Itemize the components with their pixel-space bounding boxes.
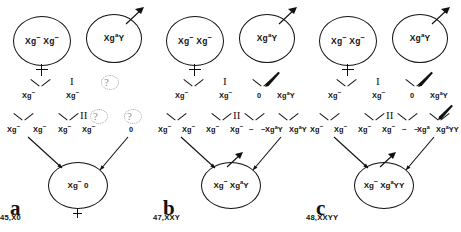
nondisjunction-arrow	[436, 103, 454, 121]
female-symbol-icon	[36, 64, 48, 76]
chromatid-chevron-II-3	[245, 113, 263, 122]
meiosis-two-product-label: Xg−	[382, 126, 395, 133]
meiosis-two-product-label: Xg−	[158, 126, 171, 133]
meiosis-two-marker: II	[80, 110, 87, 121]
male-symbol-arrow	[277, 6, 299, 26]
maternal-fusion-arrow	[22, 131, 68, 174]
maternal-genotype-label: Xg− Xg−	[331, 37, 365, 46]
bivalent-chevron-maternal-I	[31, 79, 49, 88]
paternal-fusion-arrow	[247, 131, 287, 176]
meiosis-two-marker: II	[386, 110, 393, 121]
panel-c: Xg− Xg−XgaYIXg−Xg−0XgaYIIXg−Xg−Xg−Xg−Xga…	[306, 0, 459, 232]
maternal-gamete-circle: Xg− Xg−	[13, 16, 71, 66]
question-mark-glyph: ?	[104, 76, 109, 88]
meiosis-two-product-label: Xg−	[310, 126, 323, 133]
meiosis-one-marker: I	[223, 76, 227, 87]
zygote-male-arrow	[225, 150, 245, 170]
meiosis-one-product-label: Xg−	[328, 92, 341, 99]
zygote-male-arrow	[378, 150, 398, 170]
nondisjunction-arrow	[416, 70, 434, 88]
meiosis-one-marker: I	[70, 76, 74, 87]
zygote-female-symbol-icon	[77, 209, 78, 218]
bivalent-chevron-maternal-I	[184, 79, 202, 88]
meiosis-one-product-label: Xg−	[22, 92, 35, 99]
meiosis-one-product-label: Xg−	[219, 92, 232, 99]
paternal-fusion-arrow	[400, 131, 440, 176]
meiosis-one-product-label: Xg−	[66, 92, 79, 99]
nondisjunction-arrow	[263, 70, 281, 88]
question-mark-glyph: ?	[93, 110, 98, 122]
chromatid-chevron-II-2	[59, 113, 77, 122]
maternal-gamete-circle: Xg− Xg−	[166, 16, 224, 66]
chromatid-chevron-II-2	[212, 113, 230, 122]
meiosis-one-product-label: XgaY	[430, 92, 448, 99]
meiosis-two-product-label: XgaY	[289, 126, 307, 133]
figure-canvas: Xg− Xg−XgaYI?Xg−Xg−II??Xg−Xg−Xg−Xg−0Xg− …	[0, 0, 461, 232]
meiosis-two-product-label: Xg−	[7, 126, 20, 133]
meiosis-one-product-label: Xg−	[175, 92, 188, 99]
female-symbol-icon	[189, 64, 201, 76]
paternal-fusion-arrow	[94, 131, 134, 176]
paternal-genotype-label: XgaY	[104, 34, 125, 43]
male-symbol-arrow	[124, 6, 146, 26]
meiosis-one-product-label: Xg−	[372, 92, 385, 99]
maternal-fusion-arrow	[175, 131, 221, 174]
karyotype-label-a: 45,X0	[0, 214, 21, 222]
meiosis-one-marker: I	[376, 76, 380, 87]
karyotype-label-c: 48,XXYY	[306, 214, 338, 222]
zygote-genotype-label: Xg− XgaYY	[364, 182, 405, 190]
chromatid-chevron-II-1	[167, 113, 185, 122]
paternal-genotype-label: XgaY	[410, 34, 431, 43]
maternal-gamete-circle: Xg− Xg−	[319, 16, 377, 66]
meiosis-one-product-label: XgaY	[277, 92, 295, 99]
chromatid-chevron-II-3	[398, 113, 416, 122]
zygote-genotype-label: Xg− 0	[68, 182, 89, 190]
maternal-genotype-label: Xg− Xg−	[25, 37, 59, 46]
unknown-chromosome-icon: ?	[104, 77, 109, 88]
unknown-chromosome-icon: ?	[93, 111, 98, 122]
chromatid-chevron-II-2	[365, 113, 383, 122]
maternal-fusion-arrow	[328, 131, 374, 174]
meiosis-two-marker: II	[233, 110, 240, 121]
meiosis-two-product-label: Xg−	[230, 126, 243, 133]
meiosis-one-product-label: 0	[410, 92, 414, 99]
unknown-chromosome-icon: ?	[127, 111, 132, 122]
paternal-genotype-label: XgaY	[257, 34, 278, 43]
meiosis-one-product-label: 0	[257, 92, 261, 99]
chromatid-chevron-II-1	[14, 113, 32, 122]
female-symbol-icon	[342, 64, 354, 76]
panel-b: Xg− Xg−XgaYIXg−Xg−0XgaYIIXg−Xg−Xg−Xg−Xga…	[153, 0, 306, 232]
maternal-genotype-label: Xg− Xg−	[178, 37, 212, 46]
karyotype-label-b: 47,XXY	[153, 214, 180, 222]
chromatid-chevron-II-1	[320, 113, 338, 122]
male-symbol-arrow	[430, 6, 452, 26]
chromatid-chevron-II-4	[279, 113, 297, 122]
zygote-genotype-label: Xg− XgaY	[213, 182, 248, 190]
question-mark-glyph: ?	[127, 110, 132, 122]
panel-a: Xg− Xg−XgaYI?Xg−Xg−II??Xg−Xg−Xg−Xg−0Xg− …	[0, 0, 153, 232]
bivalent-chevron-maternal-I	[337, 79, 355, 88]
